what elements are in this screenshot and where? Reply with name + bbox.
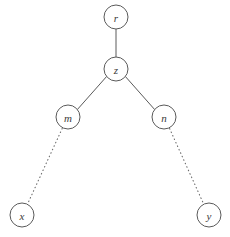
node-n-label: n: [161, 112, 167, 124]
node-r[interactable]: r: [104, 5, 128, 29]
edge-z-to-m: [77, 77, 106, 110]
node-n[interactable]: n: [152, 105, 176, 129]
edge-z-to-n: [125, 77, 154, 110]
tree-diagram-svg: r z m n x y: [0, 0, 230, 237]
node-x[interactable]: x: [10, 203, 34, 227]
node-z[interactable]: z: [104, 57, 128, 81]
edge-n-to-y: [170, 129, 204, 204]
edge-layer: [28, 29, 204, 204]
node-x-label: x: [19, 210, 25, 222]
node-m[interactable]: m: [56, 105, 80, 129]
edge-m-to-x: [28, 129, 62, 204]
node-r-label: r: [114, 12, 119, 24]
node-y[interactable]: y: [197, 203, 221, 227]
tree-diagram-canvas: r z m n x y: [0, 0, 230, 237]
node-y-label: y: [206, 210, 212, 222]
node-z-label: z: [113, 64, 119, 76]
node-m-label: m: [64, 112, 72, 124]
